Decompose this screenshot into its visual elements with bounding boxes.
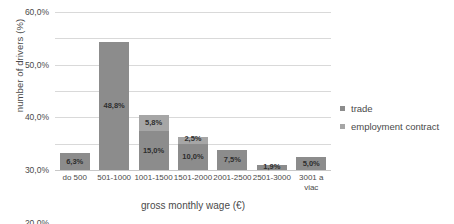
- legend-item[interactable]: trade: [340, 103, 439, 114]
- x-axis-tick-label: 2001-2500: [213, 173, 252, 203]
- bar-value-label: 15,0%: [143, 147, 164, 155]
- bar-group[interactable]: 1,9%: [252, 12, 291, 170]
- bar-group[interactable]: 5,8%15,0%: [134, 12, 173, 170]
- stacked-bar[interactable]: 6,3%: [60, 153, 90, 170]
- legend-label: employment contract: [351, 121, 439, 132]
- stacked-bar[interactable]: 2,5%10,0%: [178, 137, 208, 170]
- bar-segment[interactable]: 5,0%: [296, 157, 326, 170]
- x-axis-tick-label: 1001-1500: [134, 173, 173, 203]
- bar-value-label: 6,3%: [66, 158, 83, 166]
- chart-container: number of drivers (%) 60,0%50,0%40,0%30,…: [0, 0, 454, 224]
- x-axis-tick-label: 3001 a viac: [292, 173, 331, 203]
- y-axis-title: number of drivers (%): [14, 1, 25, 131]
- x-axis-tick-label: 2501-3000: [252, 173, 291, 203]
- bar-segment[interactable]: 48,8%: [99, 42, 129, 171]
- bar-value-label: 48,8%: [103, 102, 124, 110]
- legend-swatch: [340, 124, 345, 129]
- bar-group[interactable]: 48,8%: [94, 12, 133, 170]
- bar-segment[interactable]: 10,0%: [178, 144, 208, 170]
- legend-item[interactable]: employment contract: [340, 121, 439, 132]
- x-axis-tick-labels: do 500501-10001001-15001501-20002001-250…: [55, 173, 331, 203]
- y-axis-tick-label: 20,0%: [25, 218, 49, 224]
- bar-segment[interactable]: 15,0%: [139, 131, 169, 171]
- legend-swatch: [340, 106, 345, 111]
- y-axis-tick-label: 30,0%: [25, 165, 49, 175]
- x-axis-tick-label: 1501-2000: [173, 173, 212, 203]
- stacked-bar[interactable]: 5,0%: [296, 157, 326, 170]
- bar-segment[interactable]: 6,3%: [60, 153, 90, 170]
- x-axis-line: 0,0%: [55, 170, 331, 171]
- y-axis-tick-label: 60,0%: [25, 7, 49, 17]
- bar-series-layer: 6,3%48,8%5,8%15,0%2,5%10,0%7,5%1,9%5,0%: [55, 12, 331, 170]
- x-axis-tick-label: 501-1000: [94, 173, 133, 203]
- bar-group[interactable]: 6,3%: [55, 12, 94, 170]
- bar-value-label: 5,8%: [145, 119, 162, 127]
- bar-segment[interactable]: 5,8%: [139, 115, 169, 130]
- stacked-bar[interactable]: 48,8%: [99, 42, 129, 171]
- y-axis-tick-label: 50,0%: [25, 60, 49, 70]
- bar-value-label: 7,5%: [224, 156, 241, 164]
- x-axis-tick-label: do 500: [55, 173, 94, 203]
- bar-value-label: 1,9%: [263, 163, 280, 171]
- bar-segment[interactable]: 7,5%: [217, 150, 247, 170]
- bar-group[interactable]: 5,0%: [292, 12, 331, 170]
- stacked-bar[interactable]: 1,9%: [257, 165, 287, 170]
- bar-value-label: 5,0%: [303, 160, 320, 168]
- stacked-bar[interactable]: 5,8%15,0%: [139, 115, 169, 170]
- bar-group[interactable]: 7,5%: [213, 12, 252, 170]
- bar-value-label: 2,5%: [184, 135, 201, 143]
- bar-group[interactable]: 2,5%10,0%: [173, 12, 212, 170]
- stacked-bar[interactable]: 7,5%: [217, 150, 247, 170]
- bar-segment[interactable]: 2,5%: [178, 137, 208, 144]
- y-axis-tick-label: 40,0%: [25, 112, 49, 122]
- bar-value-label: 10,0%: [182, 153, 203, 161]
- chart-legend: tradeemployment contract: [340, 103, 439, 139]
- bar-segment[interactable]: 1,9%: [257, 165, 287, 170]
- legend-label: trade: [351, 103, 373, 114]
- x-axis-title: gross monthly wage (€): [55, 200, 331, 211]
- plot-area: 60,0%50,0%40,0%30,0%20,0%10,0%0,0% 6,3%4…: [55, 12, 331, 170]
